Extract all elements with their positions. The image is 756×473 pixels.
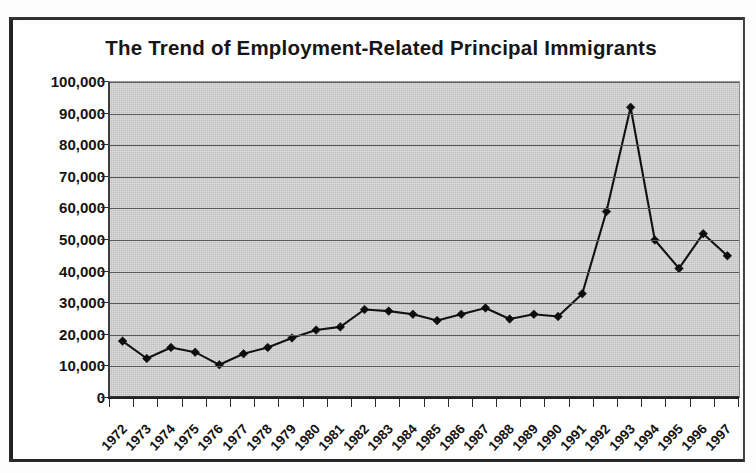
x-axis-tick-mark (617, 399, 618, 407)
gridline-50000 (110, 240, 739, 241)
x-axis-tick-label-1979: 1979 (267, 421, 298, 453)
x-axis-tick-label-1990: 1990 (534, 421, 565, 453)
data-point-1978 (263, 343, 272, 352)
y-axis-tick-mark (101, 271, 108, 272)
x-axis-tick-label-1975: 1975 (171, 421, 202, 453)
y-axis-tick-label: 30,000 (13, 294, 105, 311)
data-point-1986 (457, 310, 466, 319)
data-point-1993 (626, 103, 635, 112)
x-axis-tick-label-1978: 1978 (243, 421, 274, 453)
y-axis-tick-label: 20,000 (13, 325, 105, 342)
x-axis-tick-label-1974: 1974 (147, 421, 178, 453)
y-axis-labels: 100,00090,00080,00070,00060,00050,00040,… (13, 81, 105, 397)
x-axis-tick-label-1988: 1988 (485, 421, 516, 453)
x-axis-tick-label-1996: 1996 (679, 421, 710, 453)
y-axis-tick-label: 80,000 (13, 136, 105, 153)
x-axis-tick-mark (303, 399, 304, 407)
x-axis-tick-label-1977: 1977 (219, 421, 250, 453)
chart-title: The Trend of Employment-Related Principa… (13, 36, 749, 60)
x-axis-tick-mark (109, 399, 110, 407)
gridline-30000 (110, 303, 739, 304)
data-point-1989 (530, 310, 539, 319)
scanned-chart-page: The Trend of Employment-Related Principa… (0, 0, 756, 473)
x-axis-tick-mark (351, 399, 352, 407)
y-axis-tick-mark (101, 302, 108, 303)
x-axis-tick-mark (593, 399, 594, 407)
y-axis-tick-mark (101, 144, 108, 145)
x-axis-labels: 1972197319741975197619771978197919801981… (108, 407, 748, 467)
x-axis-tick-mark (375, 399, 376, 407)
x-axis-tick-mark (738, 399, 739, 407)
gridline-100000 (110, 82, 739, 83)
x-axis-tick-label-1972: 1972 (98, 421, 129, 453)
x-axis-tick-mark (472, 399, 473, 407)
x-axis-tick-mark (641, 399, 642, 407)
x-axis-tick-mark (206, 399, 207, 407)
data-point-1984 (409, 310, 418, 319)
y-axis-tick-mark (101, 113, 108, 114)
x-axis (108, 397, 739, 407)
x-axis-tick-label-1980: 1980 (292, 421, 323, 453)
y-axis-tick-mark (101, 176, 108, 177)
gridline-40000 (110, 272, 739, 273)
x-axis-tick-mark (230, 399, 231, 407)
x-axis-tick-label-1997: 1997 (703, 421, 734, 453)
x-axis-tick-mark (496, 399, 497, 407)
x-axis-tick-mark (254, 399, 255, 407)
y-axis-tick-label: 40,000 (13, 262, 105, 279)
data-point-1988 (505, 315, 514, 324)
x-axis-tick-label-1995: 1995 (655, 421, 686, 453)
data-point-1987 (481, 304, 490, 313)
y-axis-tick-mark (101, 81, 108, 82)
y-axis-tick-mark (101, 207, 108, 208)
y-axis-tick-mark (101, 365, 108, 366)
x-axis-tick-mark (133, 399, 134, 407)
gridline-70000 (110, 177, 739, 178)
x-axis-tick-label-1994: 1994 (630, 421, 661, 453)
x-axis-tick-mark (327, 399, 328, 407)
x-axis-tick-mark (690, 399, 691, 407)
y-axis-tick-label: 70,000 (13, 167, 105, 184)
y-axis-tick-label: 50,000 (13, 231, 105, 248)
x-axis-tick-label-1976: 1976 (195, 421, 226, 453)
x-axis-tick-mark (448, 399, 449, 407)
x-axis-tick-label-1973: 1973 (122, 421, 153, 453)
x-axis-tick-mark (157, 399, 158, 407)
x-axis-tick-label-1992: 1992 (582, 421, 613, 453)
x-axis-tick-mark (424, 399, 425, 407)
x-axis-tick-mark (182, 399, 183, 407)
y-axis-tick-mark (101, 334, 108, 335)
x-axis-tick-mark (665, 399, 666, 407)
y-axis-tick-label: 60,000 (13, 199, 105, 216)
x-axis-tick-mark (714, 399, 715, 407)
plot-area (108, 81, 740, 398)
gridline-80000 (110, 145, 739, 146)
y-axis-tick-label: 10,000 (13, 357, 105, 374)
data-point-1983 (384, 307, 393, 316)
data-point-1974 (167, 343, 176, 352)
x-axis-tick-label-1991: 1991 (558, 421, 589, 453)
gridline-60000 (110, 208, 739, 209)
chart-frame: The Trend of Employment-Related Principa… (9, 17, 745, 462)
gridline-20000 (110, 335, 739, 336)
data-point-1980 (312, 326, 321, 335)
data-point-1985 (433, 316, 442, 325)
x-axis-tick-label-1983: 1983 (364, 421, 395, 453)
y-axis-tick-label: 90,000 (13, 104, 105, 121)
gridline-10000 (110, 366, 739, 367)
y-axis-tick-label: 0 (13, 389, 105, 406)
x-axis-tick-label-1989: 1989 (509, 421, 540, 453)
x-axis-tick-label-1986: 1986 (437, 421, 468, 453)
x-axis-tick-label-1982: 1982 (340, 421, 371, 453)
x-axis-tick-label-1984: 1984 (388, 421, 419, 453)
x-axis-tick-mark (520, 399, 521, 407)
data-point-1976 (215, 361, 224, 370)
data-point-1977 (239, 349, 248, 358)
gridline-90000 (110, 114, 739, 115)
y-axis-tick-label: 100,000 (13, 73, 105, 90)
x-axis-tick-label-1987: 1987 (461, 421, 492, 453)
x-axis-tick-mark (278, 399, 279, 407)
x-axis-tick-label-1981: 1981 (316, 421, 347, 453)
x-axis-tick-mark (399, 399, 400, 407)
x-axis-tick-label-1993: 1993 (606, 421, 637, 453)
